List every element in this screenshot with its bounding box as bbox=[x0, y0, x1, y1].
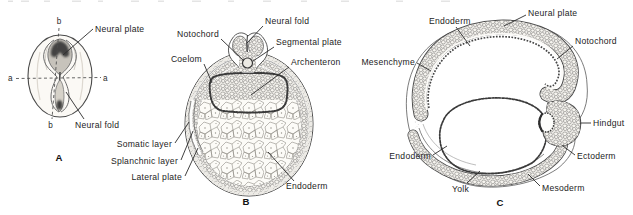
label-mesoderm: Mesoderm bbox=[542, 183, 585, 193]
cropped-caption-remnant bbox=[8, 1, 450, 2]
label-endoderm-b: Endoderm bbox=[286, 181, 328, 191]
label-notochord-c: Notochord bbox=[575, 36, 617, 46]
axis-label-b-top: b bbox=[57, 17, 62, 26]
axis-label-a-left: a bbox=[8, 74, 13, 83]
panel-b: Neural fold Notochord Coelom Segmental p… bbox=[111, 16, 342, 207]
label-coelom: Coelom bbox=[171, 54, 202, 64]
label-neural-fold-b: Neural fold bbox=[265, 16, 309, 26]
notochord-b bbox=[243, 58, 253, 68]
label-endoderm-top: Endoderm bbox=[429, 16, 471, 26]
label-notochord-b: Notochord bbox=[177, 29, 219, 39]
label-splanchnic-layer: Splanchnic layer bbox=[111, 156, 178, 166]
label-hindgut: Hindgut bbox=[593, 118, 625, 128]
label-segmental-plate: Segmental plate bbox=[276, 37, 342, 47]
figure-page: b b a a Neural plate Neural fold A bbox=[0, 0, 633, 215]
embryo-c-drawing bbox=[406, 22, 587, 188]
panel-letter-b: B bbox=[242, 196, 249, 207]
label-neural-plate-a: Neural plate bbox=[95, 24, 144, 34]
embryo-a-drawing bbox=[28, 35, 92, 117]
label-archenteron: Archenteron bbox=[291, 57, 341, 67]
panel-letter-a: A bbox=[55, 152, 62, 163]
label-lateral-plate: Lateral plate bbox=[131, 172, 182, 182]
figure-canvas: b b a a Neural plate Neural fold A bbox=[0, 0, 633, 215]
label-ectoderm: Ectoderm bbox=[577, 151, 616, 161]
label-neural-plate-c: Neural plate bbox=[528, 8, 577, 18]
panel-letter-c: C bbox=[496, 197, 503, 208]
axis-label-a-right: a bbox=[103, 74, 108, 83]
label-neural-fold-a: Neural fold bbox=[75, 120, 119, 130]
label-somatic-layer: Somatic layer bbox=[117, 139, 172, 149]
panel-c: Endoderm Neural plate Notochord Mesenchy… bbox=[361, 8, 624, 208]
axis-label-b-bottom: b bbox=[48, 121, 53, 130]
label-yolk: Yolk bbox=[452, 184, 469, 194]
label-mesenchyme: Mesenchyme bbox=[361, 57, 415, 67]
label-endoderm-bottom: Endoderm bbox=[389, 151, 431, 161]
